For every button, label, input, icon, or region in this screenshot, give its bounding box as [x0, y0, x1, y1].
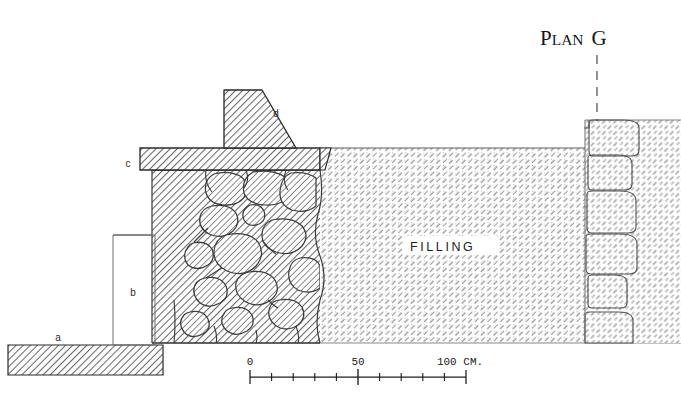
ashlar-blocks — [584, 120, 681, 343]
filling-caption: FILLING — [403, 236, 499, 255]
ground-band-a — [8, 345, 163, 375]
label-b: b — [130, 287, 136, 298]
figure-canvas: a b c d FILLING PLANG 0 50 100 CM. — [0, 0, 681, 406]
filling-label: FILLING — [410, 240, 475, 254]
scale-tick-50: 50 — [351, 356, 364, 368]
wall-section-drawing: a b c d FILLING PLANG 0 50 100 CM. — [0, 0, 681, 406]
wall-core-masonry — [152, 170, 324, 343]
capping-slab-c — [140, 148, 331, 170]
scale-tick-0: 0 — [247, 356, 254, 368]
label-a: a — [55, 332, 61, 343]
scale-tick-100: 100 CM. — [437, 356, 483, 368]
label-d: d — [273, 108, 279, 119]
label-c: c — [126, 158, 131, 169]
